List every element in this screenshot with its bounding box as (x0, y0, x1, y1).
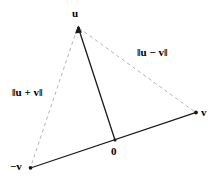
segment-label-u-plus-v-norm: ‖u + v‖ (12, 87, 43, 98)
vertex-label-negative-v: −v (10, 161, 22, 172)
segment-origin-to-u (79, 29, 115, 141)
vertex-label-origin: 0 (111, 146, 117, 157)
segment-neg-v-to-v (31, 113, 196, 168)
segment-u-to-v (79, 28, 195, 112)
segment-label-u-minus-v-norm: ‖u − v‖ (137, 47, 168, 58)
vertex-label-v: v (201, 107, 207, 118)
vertex-dot-v (194, 111, 198, 115)
vertex-dot-origin (113, 138, 116, 141)
vertex-dot-neg-v (29, 166, 33, 170)
vertex-dot-u (77, 26, 80, 29)
vector-diagram: u v −v 0 ‖u − v‖ ‖u + v‖ (0, 0, 218, 183)
vertex-label-u: u (72, 8, 78, 19)
